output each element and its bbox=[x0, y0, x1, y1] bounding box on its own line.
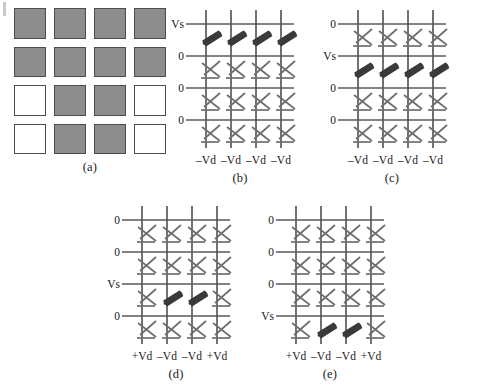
memory-cell-unselected bbox=[376, 89, 402, 115]
memory-cell-unselected bbox=[224, 57, 250, 83]
crossbar-cells bbox=[338, 8, 446, 148]
memory-cell-unselected bbox=[314, 285, 340, 311]
panel-e: 000Vs +Vd–Vd–Vd+Vd (e) bbox=[276, 204, 384, 382]
memory-cell-unselected bbox=[376, 121, 402, 147]
crossbar-array-d bbox=[122, 204, 230, 344]
column-voltage-label: –Vd bbox=[271, 154, 291, 166]
memory-cell-unselected bbox=[160, 317, 186, 343]
panel-a-caption: (a) bbox=[14, 160, 166, 175]
panel-d-caption: (d) bbox=[122, 367, 230, 382]
memory-cell-selected bbox=[249, 25, 275, 51]
memory-cell-unselected bbox=[426, 25, 452, 51]
memory-cell-unselected bbox=[364, 253, 390, 279]
pixel-cell-on bbox=[54, 124, 86, 155]
memory-cell-unselected bbox=[249, 121, 275, 147]
memory-cell-unselected bbox=[426, 89, 452, 115]
memory-cell-unselected bbox=[289, 221, 315, 247]
column-voltage-label: –Vd bbox=[182, 350, 202, 362]
memory-cell-unselected bbox=[135, 317, 161, 343]
column-voltage-label: +Vd bbox=[286, 350, 307, 362]
column-voltage-label: –Vd bbox=[348, 154, 368, 166]
memory-cell-unselected bbox=[160, 253, 186, 279]
pixel-map-grid bbox=[14, 8, 166, 154]
pixel-cell-on bbox=[94, 85, 126, 116]
memory-cell-selected bbox=[274, 25, 300, 51]
row-voltage-label: 0 bbox=[178, 50, 184, 62]
crossbar-array-b bbox=[186, 8, 294, 148]
memory-cell-selected bbox=[426, 57, 452, 83]
column-voltage-labels: –Vd–Vd–Vd–Vd bbox=[338, 154, 446, 170]
row-voltage-label: Vs bbox=[171, 18, 184, 30]
memory-cell-unselected bbox=[185, 221, 211, 247]
row-voltage-label: 0 bbox=[114, 310, 120, 322]
memory-cell-unselected bbox=[351, 25, 377, 51]
row-voltage-label: 0 bbox=[330, 82, 336, 94]
column-voltage-label: –Vd bbox=[373, 154, 393, 166]
column-voltage-label: –Vd bbox=[311, 350, 331, 362]
row-voltage-labels: Vs000 bbox=[160, 8, 184, 148]
memory-cell-unselected bbox=[339, 221, 365, 247]
column-voltage-label: +Vd bbox=[132, 350, 153, 362]
column-voltage-label: +Vd bbox=[207, 350, 228, 362]
memory-cell-unselected bbox=[274, 89, 300, 115]
memory-cell-selected bbox=[351, 57, 377, 83]
memory-cell-unselected bbox=[401, 89, 427, 115]
memory-cell-unselected bbox=[426, 121, 452, 147]
memory-cell-unselected bbox=[199, 57, 225, 83]
memory-cell-selected bbox=[185, 285, 211, 311]
memory-cell-unselected bbox=[314, 221, 340, 247]
memory-cell-unselected bbox=[314, 253, 340, 279]
memory-cell-unselected bbox=[135, 253, 161, 279]
column-voltage-label: –Vd bbox=[423, 154, 443, 166]
column-voltage-label: –Vd bbox=[157, 350, 177, 362]
memory-cell-unselected bbox=[351, 89, 377, 115]
panel-c-caption: (c) bbox=[338, 171, 446, 186]
pixel-cell-on bbox=[54, 47, 86, 78]
row-voltage-label: 0 bbox=[178, 82, 184, 94]
memory-cell-unselected bbox=[401, 25, 427, 51]
pixel-cell-on bbox=[94, 8, 126, 39]
memory-cell-unselected bbox=[135, 285, 161, 311]
memory-cell-selected bbox=[160, 285, 186, 311]
figure-root: (a) Vs000 –Vd–Vd–Vd–Vd (b) 0Vs00 –Vd–Vd–… bbox=[0, 0, 478, 386]
pixel-cell-on bbox=[94, 124, 126, 155]
column-voltage-label: +Vd bbox=[361, 350, 382, 362]
row-voltage-label: 0 bbox=[114, 246, 120, 258]
memory-cell-unselected bbox=[249, 57, 275, 83]
memory-cell-unselected bbox=[249, 89, 275, 115]
panel-e-caption: (e) bbox=[276, 367, 384, 382]
pixel-cell-off bbox=[14, 124, 46, 155]
column-voltage-label: –Vd bbox=[196, 154, 216, 166]
pixel-cell-on bbox=[14, 47, 46, 78]
crossbar-array-c bbox=[338, 8, 446, 148]
column-voltage-label: –Vd bbox=[336, 350, 356, 362]
memory-cell-unselected bbox=[351, 121, 377, 147]
pixel-cell-on bbox=[54, 85, 86, 116]
memory-cell-unselected bbox=[210, 285, 236, 311]
memory-cell-selected bbox=[376, 57, 402, 83]
row-voltage-label: 0 bbox=[178, 114, 184, 126]
row-voltage-labels: 0Vs00 bbox=[312, 8, 336, 148]
memory-cell-unselected bbox=[364, 317, 390, 343]
row-voltage-labels: 00Vs0 bbox=[94, 204, 120, 344]
memory-cell-selected bbox=[224, 25, 250, 51]
row-voltage-label: 0 bbox=[268, 278, 274, 290]
column-voltage-label: –Vd bbox=[221, 154, 241, 166]
memory-cell-unselected bbox=[364, 285, 390, 311]
panel-c: 0Vs00 –Vd–Vd–Vd–Vd (c) bbox=[338, 8, 446, 186]
column-voltage-label: –Vd bbox=[398, 154, 418, 166]
memory-cell-unselected bbox=[199, 89, 225, 115]
row-voltage-label: 0 bbox=[330, 18, 336, 30]
memory-cell-unselected bbox=[339, 253, 365, 279]
page-edge-artifact bbox=[3, 2, 6, 16]
memory-cell-unselected bbox=[185, 317, 211, 343]
crossbar-cells bbox=[122, 204, 230, 344]
memory-cell-unselected bbox=[160, 221, 186, 247]
crossbar-array-e bbox=[276, 204, 384, 344]
memory-cell-unselected bbox=[224, 89, 250, 115]
memory-cell-selected bbox=[339, 317, 365, 343]
memory-cell-unselected bbox=[401, 121, 427, 147]
panel-b: Vs000 –Vd–Vd–Vd–Vd (b) bbox=[186, 8, 294, 186]
memory-cell-unselected bbox=[339, 285, 365, 311]
memory-cell-unselected bbox=[274, 57, 300, 83]
